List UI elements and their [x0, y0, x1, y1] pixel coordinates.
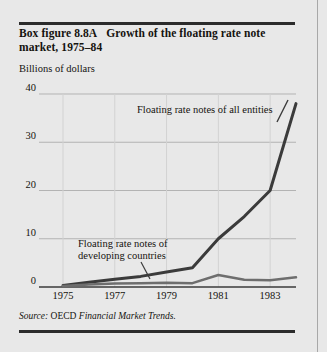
annotation-line: Floating rate notes of all entities: [137, 104, 273, 116]
bottom-divider-rule: [19, 330, 295, 333]
x-tick-1983: 1983: [250, 290, 290, 301]
source-publication: Financial Market Trends.: [79, 311, 176, 321]
y-tick-10: 10: [14, 227, 36, 238]
y-tick-40: 40: [14, 82, 36, 93]
x-tick-1977: 1977: [95, 290, 135, 301]
annotation-line: developing countries: [78, 250, 168, 262]
y-tick-0: 0: [14, 275, 36, 286]
source-prefix: Source:: [19, 311, 48, 321]
source-organization: OECD: [51, 311, 77, 321]
annotation-developing-countries: Floating rate notes ofdeveloping countri…: [78, 238, 168, 262]
x-tick-1975: 1975: [43, 290, 83, 301]
annotation-line: Floating rate notes of: [78, 238, 168, 250]
x-tick-1981: 1981: [198, 290, 238, 301]
x-tick-1979: 1979: [147, 290, 187, 301]
y-tick-20: 20: [14, 179, 36, 190]
source-note: Source: OECD Financial Market Trends.: [19, 311, 176, 321]
figure-page: Box figure 8.8AGrowth of the floating ra…: [0, 0, 327, 352]
annotation-all-entities: Floating rate notes of all entities: [137, 104, 273, 116]
y-tick-30: 30: [14, 130, 36, 141]
